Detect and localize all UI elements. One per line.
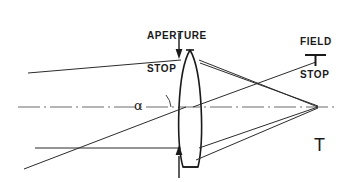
field-stop-label: FIELD STOP (300, 14, 332, 102)
field-stop-label-line2: STOP (300, 69, 332, 80)
oblique-ray-lower-out (196, 108, 318, 160)
outgoing-ray-lower (199, 107, 318, 148)
aperture-stop-label: APERTURE STOP (147, 8, 207, 96)
aperture-stop-label-line1: APERTURE (147, 30, 207, 41)
field-stop-label-line1: FIELD (300, 36, 332, 47)
corner-marker-label: T (314, 140, 325, 151)
aperture-stop-label-line2: STOP (147, 63, 207, 74)
oblique-chief-ray-out (193, 62, 316, 107)
angle-alpha-marker (166, 95, 171, 107)
angle-alpha-label: α (134, 100, 143, 111)
optical-diagram-canvas: APERTURE STOP FIELD STOP α T (0, 0, 351, 182)
oblique-chief-ray-in (24, 107, 186, 169)
